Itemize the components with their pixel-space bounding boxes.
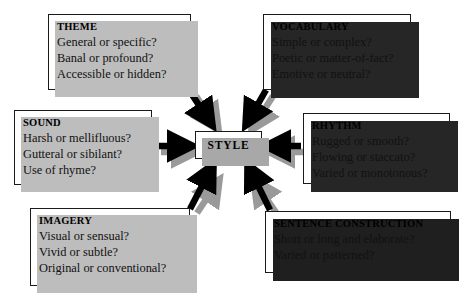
node-rhythm[interactable]: RHYTHM Rugged or smooth? Flowing or stac… — [303, 113, 450, 184]
node-sound-line-2: Gutteral or sibilant? — [23, 146, 144, 162]
node-theme-line-2: Banal or profound? — [57, 50, 183, 66]
node-vocabulary-line-2: Poetic or matter-of-fact? — [272, 50, 403, 66]
node-vocabulary-line-1: Simple or complex? — [272, 34, 403, 50]
node-imagery-line-2: Vivid or subtle? — [39, 244, 182, 260]
node-imagery-line-1: Visual or sensual? — [39, 228, 182, 244]
node-theme-line-3: Accessible or hidden? — [57, 66, 183, 82]
node-sound-line-3: Use of rhyme? — [23, 162, 144, 178]
node-rhythm-line-2: Flowing or staccato? — [312, 149, 442, 165]
node-imagery[interactable]: IMAGERY Visual or sensual? Vivid or subt… — [30, 208, 190, 286]
node-rhythm-line-1: Rugged or smooth? — [312, 133, 442, 149]
node-theme-title: THEME — [57, 20, 183, 34]
node-sound[interactable]: SOUND Harsh or mellifluous? Gutteral or … — [14, 110, 152, 185]
node-sentence-construction-line-1: Short or long and elaborate? — [274, 231, 443, 247]
node-sentence-construction-line-2: Varied or patterned? — [274, 247, 443, 263]
node-vocabulary-line-3: Emotive or neutral? — [272, 66, 403, 82]
node-imagery-title: IMAGERY — [39, 214, 182, 228]
node-theme-line-1: General or specific? — [57, 34, 183, 50]
node-sentence-construction[interactable]: SENTENCE CONSTRUCTION Short or long and … — [265, 211, 451, 273]
node-rhythm-line-3: Varied or monotonous? — [312, 165, 442, 181]
node-vocabulary[interactable]: VOCABULARY Simple or complex? Poetic or … — [263, 14, 411, 90]
node-style-center-label: STYLE — [207, 139, 249, 151]
node-sound-title: SOUND — [23, 116, 144, 130]
node-sound-line-1: Harsh or mellifluous? — [23, 130, 144, 146]
node-style-center[interactable]: STYLE — [195, 131, 262, 159]
node-rhythm-title: RHYTHM — [312, 119, 442, 133]
node-sentence-construction-title: SENTENCE CONSTRUCTION — [274, 217, 443, 231]
style-concept-diagram: THEME General or specific? Banal or prof… — [0, 0, 471, 301]
arrow-sentence-to-style — [248, 165, 270, 210]
node-vocabulary-title: VOCABULARY — [272, 20, 403, 34]
node-imagery-line-3: Original or conventional? — [39, 260, 182, 276]
node-theme[interactable]: THEME General or specific? Banal or prof… — [48, 14, 191, 90]
